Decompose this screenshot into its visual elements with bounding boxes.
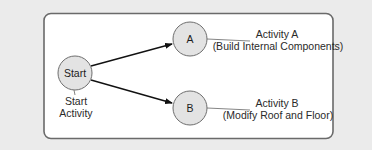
start-caption-line2: Activity: [59, 107, 93, 119]
node-a-label: A: [186, 33, 193, 45]
node-b-label: B: [186, 102, 193, 114]
activity-a-description: (Build Internal Components): [213, 40, 344, 52]
node-start-label: Start: [64, 67, 86, 79]
activity-b-description: (Modify Roof and Floor): [223, 109, 333, 121]
node-start[interactable]: Start: [58, 56, 92, 90]
activity-b-title: Activity B: [255, 97, 298, 109]
activity-a-title: Activity A: [256, 28, 299, 40]
node-b[interactable]: B: [173, 91, 207, 125]
activity-network-diagram: Start Start Activity A Activity A (Build…: [0, 0, 372, 150]
node-a[interactable]: A: [173, 22, 207, 56]
start-caption-line1: Start: [65, 95, 87, 107]
